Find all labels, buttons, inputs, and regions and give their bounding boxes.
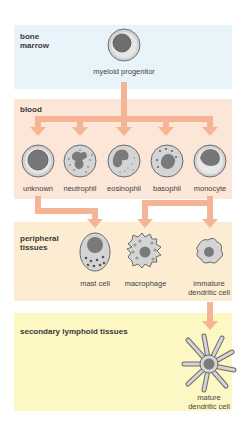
mature-dendritic-cell	[184, 336, 234, 390]
myeloid-progenitor-cell	[108, 29, 140, 61]
immature-dc-label-line2: dendritic cell	[180, 288, 238, 297]
bone-marrow-label: bone marrow	[20, 32, 49, 50]
peripheral-label-line1: peripheral	[20, 234, 59, 243]
neutrophil-label: neutrophil	[55, 184, 105, 193]
monocyte-cell	[194, 145, 226, 177]
immature-dc-label-line1: immature	[180, 279, 238, 288]
basophil-cell	[151, 145, 183, 177]
unknown-cell	[22, 145, 54, 177]
bone-marrow-label-line2: marrow	[20, 41, 49, 50]
monocyte-label: monocyte	[185, 184, 235, 193]
immature-dendritic-cell	[197, 238, 223, 263]
neutrophil-cell	[64, 145, 96, 177]
immature-dendritic-cell-label: immature dendritic cell	[180, 279, 238, 297]
mature-dc-label-line2: dendritic cell	[180, 402, 238, 411]
blood-label: blood	[20, 105, 42, 114]
eosinophil-cell	[108, 145, 140, 177]
myeloid-progenitor-label: myeloid progenitor	[84, 67, 164, 76]
lymphoid-tissues-label: secondary lymphoid tissues	[20, 327, 128, 336]
peripheral-tissues-label: peripheral tissues	[20, 234, 59, 252]
mast-cell	[80, 233, 110, 271]
mature-dendritic-cell-label: mature dendritic cell	[180, 393, 238, 411]
macrophage-cell	[127, 233, 161, 268]
bone-marrow-label-line1: bone	[20, 32, 49, 41]
macrophage-label: macrophage	[118, 279, 173, 288]
diagram-graphics	[0, 0, 247, 423]
mast-cell-label: mast cell	[70, 279, 120, 288]
mature-dc-label-line1: mature	[180, 393, 238, 402]
peripheral-label-line2: tissues	[20, 243, 59, 252]
